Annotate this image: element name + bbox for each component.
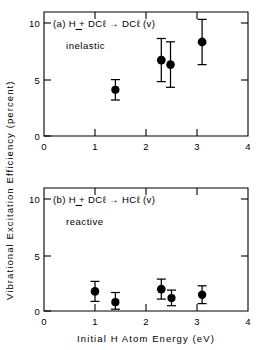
panel-a-datapoint [111,80,120,100]
panel-a-datapoint [157,39,166,82]
panel-b-marker [167,294,175,302]
panel-a-xticklabel-3: 3 [194,141,199,152]
panel-b-data-series [91,279,207,309]
panel-a-xticklabel-1: 1 [92,141,97,152]
panel-a: 10 5 0 (a) H + DCℓ → DCℓ (v) inelastic [29,12,251,152]
panel-a-xticklabel-4: 4 [245,141,250,152]
panel-a-yticklabel-0: 0 [35,131,40,142]
panel-b-datapoint [198,286,207,304]
scientific-figure: Vibrational Excitation Efficiency (perce… [0,0,258,350]
panel-b-datapoint [157,279,166,299]
panel-a-datapoint [166,42,175,88]
panel-a-datapoint [198,19,207,64]
panel-a-yticklabel-5: 5 [35,75,40,86]
panel-b-subtitle: reactive [66,216,104,227]
panel-a-title-group: (a) H + DCℓ → DCℓ (v) [53,18,155,30]
panel-b-title-group: (b) H + DCℓ → HCℓ (v) [53,194,155,206]
panel-b-datapoint [91,281,100,301]
panel-b-xticklabel-4: 4 [245,316,250,327]
panel-b-xticklabel-2: 2 [143,316,148,327]
panel-b: 10 5 0 (b) H + DCℓ → HCℓ (v) reactive [29,188,251,327]
panel-a-marker [157,56,166,65]
panel-b-title: (b) H + DCℓ → HCℓ (v) [53,194,155,205]
panel-b-datapoint [167,290,176,306]
panel-b-marker [198,291,206,299]
panel-a-marker [198,38,207,47]
panel-b-yticklabel-10: 10 [29,194,40,205]
panel-a-yticklabel-10: 10 [29,18,40,29]
panel-b-xticklabel-0: 0 [41,316,46,327]
panel-a-xticklabel-0: 0 [41,141,46,152]
panel-b-xticklabel-3: 3 [194,316,199,327]
panel-b-marker [111,298,119,306]
panel-b-xticklabel-1: 1 [92,316,97,327]
panel-b-yticklabel-0: 0 [35,306,40,317]
panel-a-data-series [111,19,207,100]
panel-a-frame [44,12,248,136]
panel-b-marker [91,287,100,296]
panel-a-subtitle: inelastic [66,40,105,51]
figure-container: Vibrational Excitation Efficiency (perce… [0,0,258,350]
panel-a-xticklabel-2: 2 [143,141,148,152]
y-axis-title: Vibrational Excitation Efficiency (perce… [4,80,15,300]
panel-b-yticklabel-5: 5 [35,251,40,262]
x-axis-title: Initial H Atom Energy (eV) [77,333,215,344]
panel-a-marker [166,60,175,69]
panel-b-marker [157,285,166,294]
panel-b-frame [44,188,248,311]
panel-b-datapoint [111,293,120,310]
panel-a-marker [111,86,119,94]
panel-a-title: (a) H + DCℓ → DCℓ (v) [53,18,155,29]
